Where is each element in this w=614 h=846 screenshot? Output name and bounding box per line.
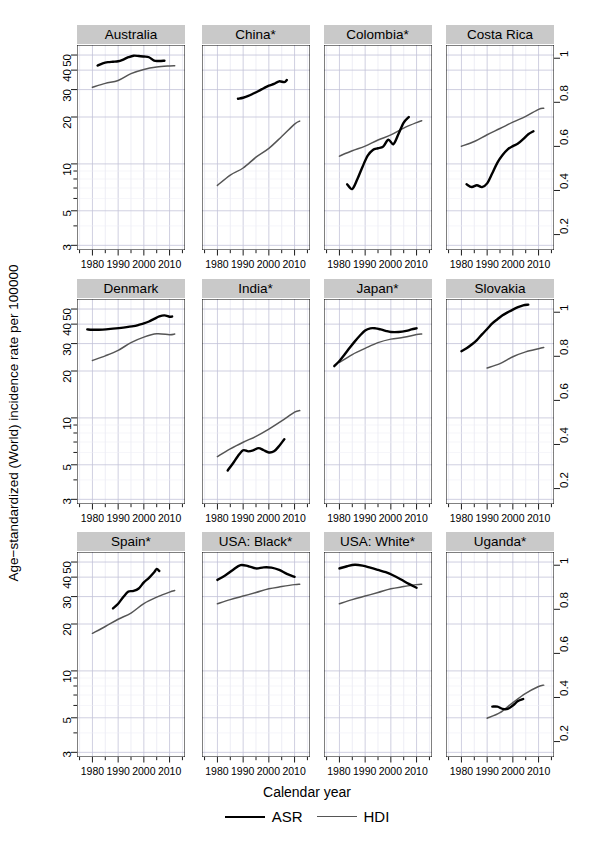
y-tick-label-left: 50 — [61, 561, 73, 587]
y-tick-label-right: 0.6 — [558, 373, 570, 399]
x-tick-label: 1990 — [353, 765, 376, 777]
panel-plot-usa-white — [324, 552, 432, 757]
y-tick-label-left: 5 — [61, 464, 73, 490]
x-tick-label: 2010 — [404, 765, 427, 777]
x-tick-label: 1980 — [205, 765, 228, 777]
panel-xaxis-labels: 1980199020002010 — [446, 512, 554, 526]
y-tick-label-left: 5 — [61, 717, 73, 743]
panel-xaxis-labels: 1980199020002010 — [324, 765, 432, 779]
panel-plot-uganda — [446, 552, 554, 757]
panel-plot-usa-black — [202, 552, 310, 757]
x-tick-label: 2000 — [132, 765, 155, 777]
y-tick-label-left: 10 — [61, 163, 73, 189]
x-tick-label: 2010 — [404, 258, 427, 270]
panel-xaxis-labels: 1980199020002010 — [446, 258, 554, 272]
x-tick-label: 2010 — [527, 258, 550, 270]
y-axis-title: Age−standardized (World) incidence rate … — [0, 0, 26, 846]
x-tick-label: 1990 — [353, 258, 376, 270]
x-tick-label: 1990 — [353, 512, 376, 524]
x-tick-label: 1980 — [450, 258, 473, 270]
x-tick-label: 2000 — [501, 258, 524, 270]
panel-xaxis-labels: 1980199020002010 — [324, 512, 432, 526]
x-tick-label: 2000 — [132, 512, 155, 524]
x-tick-label: 1980 — [327, 765, 350, 777]
panel-xaxis-ticks — [324, 757, 432, 764]
panel-plot-australia — [77, 45, 185, 250]
legend-line-asr — [225, 816, 265, 818]
panel-xaxis-ticks — [446, 250, 554, 257]
panel-plot-spain — [77, 552, 185, 757]
y-tick-label-right: 0.4 — [558, 163, 570, 189]
y-tick-label-left: 50 — [61, 54, 73, 80]
x-tick-label: 1980 — [81, 765, 104, 777]
panel-xaxis-ticks — [446, 757, 554, 764]
y-tick-label-left: 10 — [61, 670, 73, 696]
panel-xaxis-ticks — [77, 504, 185, 511]
panel-title-usa-white: USA: White* — [324, 532, 432, 551]
panel-xaxis-labels: 1980199020002010 — [77, 765, 185, 779]
y-tick-label-left: 10 — [61, 417, 73, 443]
legend-line-hdi — [317, 816, 357, 817]
y-tick-label-right: 0.6 — [558, 626, 570, 652]
x-tick-label: 1980 — [327, 258, 350, 270]
y-tick-label-right: 0.6 — [558, 119, 570, 145]
y-tick-label-right: 1 — [558, 285, 570, 311]
y-tick-label-left: 20 — [61, 116, 73, 142]
panel-plot-slovakia — [446, 299, 554, 504]
x-tick-label: 1990 — [475, 512, 498, 524]
panel-title-colombia: Colombia* — [324, 25, 432, 44]
x-tick-label: 2010 — [527, 512, 550, 524]
x-tick-label: 2010 — [527, 765, 550, 777]
panel-xaxis-labels: 1980199020002010 — [77, 258, 185, 272]
panel-title-china: China* — [202, 25, 310, 44]
y-tick-label-left: 3 — [61, 244, 73, 270]
x-tick-label: 1980 — [450, 512, 473, 524]
x-tick-label: 2000 — [379, 512, 402, 524]
panel-plot-india — [202, 299, 310, 504]
x-tick-label: 2000 — [132, 258, 155, 270]
legend-label-hdi: HDI — [364, 808, 390, 825]
x-tick-label: 1990 — [106, 512, 129, 524]
panel-title-spain: Spain* — [77, 532, 185, 551]
x-tick-label: 2010 — [282, 258, 305, 270]
y-tick-label-right: 1 — [558, 31, 570, 57]
y-tick-label-left: 20 — [61, 370, 73, 396]
x-tick-label: 1990 — [231, 765, 254, 777]
y-tick-label-left: 5 — [61, 210, 73, 236]
x-tick-label: 2010 — [158, 258, 181, 270]
panel-xaxis-labels: 1980199020002010 — [202, 512, 310, 526]
panel-xaxis-labels: 1980199020002010 — [202, 765, 310, 779]
x-tick-label: 2010 — [404, 512, 427, 524]
panel-title-usa-black: USA: Black* — [202, 532, 310, 551]
chart-legend: ASR HDI — [0, 808, 614, 825]
y-tick-label-left: 20 — [61, 623, 73, 649]
x-tick-label: 1990 — [231, 258, 254, 270]
panel-xaxis-labels: 1980199020002010 — [324, 258, 432, 272]
y-tick-label-right: 0.2 — [558, 462, 570, 488]
x-tick-label: 2000 — [257, 512, 280, 524]
x-tick-label: 1990 — [231, 512, 254, 524]
panel-xaxis-ticks — [324, 250, 432, 257]
panel-title-india: India* — [202, 279, 310, 298]
legend-item-hdi: HDI — [317, 808, 390, 825]
panel-xaxis-ticks — [446, 504, 554, 511]
y-tick-label-right: 0.4 — [558, 417, 570, 443]
panel-plot-china — [202, 45, 310, 250]
panel-xaxis-labels: 1980199020002010 — [446, 765, 554, 779]
panel-xaxis-labels: 1980199020002010 — [77, 512, 185, 526]
panel-xaxis-ticks — [324, 504, 432, 511]
panel-xaxis-ticks — [202, 250, 310, 257]
x-tick-label: 1990 — [475, 765, 498, 777]
panel-plot-costa-rica — [446, 45, 554, 250]
panel-title-australia: Australia — [77, 25, 185, 44]
x-tick-label: 2000 — [379, 258, 402, 270]
x-tick-label: 1990 — [475, 258, 498, 270]
y-tick-label-right: 0.4 — [558, 670, 570, 696]
x-tick-label: 1980 — [205, 512, 228, 524]
x-tick-label: 1980 — [327, 512, 350, 524]
panel-xaxis-ticks — [202, 504, 310, 511]
x-tick-label: 1980 — [81, 258, 104, 270]
x-tick-label: 2010 — [158, 765, 181, 777]
y-tick-label-right: 0.2 — [558, 208, 570, 234]
x-tick-label: 1980 — [450, 765, 473, 777]
